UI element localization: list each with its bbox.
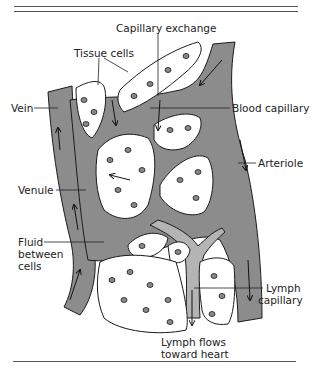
- label-capillary-exchange: Capillary exchange: [116, 22, 216, 34]
- label-lymph-flows-line2: toward heart: [161, 348, 229, 360]
- label-lymph-capillary-line2: capillary: [258, 294, 303, 306]
- label-fluid-line3: cells: [18, 260, 42, 272]
- label-venule: Venule: [18, 184, 54, 196]
- cluster-bottom: [97, 255, 187, 332]
- label-lymph-flows-line1: Lymph flows: [161, 336, 226, 348]
- label-vein: Vein: [11, 102, 33, 114]
- label-arteriole: Arteriole: [258, 157, 303, 169]
- label-tissue-cells: Tissue cells: [74, 47, 134, 59]
- label-lymph-capillary-line1: Lymph: [266, 282, 301, 294]
- label-blood-capillary: Blood capillary: [232, 102, 310, 114]
- label-fluid-line1: Fluid: [18, 236, 43, 248]
- cluster-center: [96, 134, 155, 218]
- cluster-bottom-right: [199, 258, 235, 325]
- label-fluid-line2: between: [18, 248, 63, 260]
